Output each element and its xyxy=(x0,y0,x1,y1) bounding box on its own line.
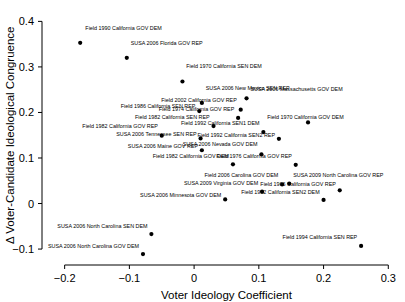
y-tick-label: 0.4 xyxy=(19,15,34,27)
data-point[interactable] xyxy=(231,162,235,166)
data-point[interactable] xyxy=(321,198,325,202)
data-point[interactable] xyxy=(239,108,243,112)
point-label: Field 1992 California SEN2 REP xyxy=(197,132,275,138)
y-tick-label: 0.2 xyxy=(19,106,34,118)
data-point[interactable] xyxy=(277,137,281,141)
y-tick-label: 0.1 xyxy=(19,152,34,164)
point-label: Field 1974 California GOV REP xyxy=(159,106,235,112)
point-label: Field 1992 California SEN1 DEM xyxy=(181,120,260,126)
point-label: Field 1970 California SEN DEM xyxy=(186,63,262,69)
data-point[interactable] xyxy=(306,120,310,124)
point-label: SUSA 2009 North Carolina GOV REP xyxy=(293,172,384,178)
point-label: SUSA 2009 Virginia GOV DEM xyxy=(184,180,259,186)
point-label: Field 1990 California GOV DEM xyxy=(85,25,162,31)
chart-canvas: −0.100.10.20.30.4−0.2−0.100.10.20.3Voter… xyxy=(0,0,405,302)
data-point[interactable] xyxy=(223,197,227,201)
x-tick-label: 0 xyxy=(191,272,197,284)
x-tick-label: 0.1 xyxy=(251,272,266,284)
x-tick-label: 0.2 xyxy=(316,272,331,284)
point-label: SUSA 2006 Tennessee SEN REP xyxy=(116,131,197,137)
point-label: Field 2006 Carolina GOV DEM xyxy=(205,172,279,178)
point-label: Field 1994 California SEN REP xyxy=(283,234,358,240)
point-label: SUSA 2006 Massachusetts GOV DEM xyxy=(250,86,343,92)
data-point[interactable] xyxy=(78,41,82,45)
point-label: SUSA 2006 Florida GOV REP xyxy=(131,40,203,46)
point-label: Field 1976 California GOV REP xyxy=(216,153,292,159)
scatter-plot: −0.100.10.20.30.4−0.2−0.100.10.20.3Voter… xyxy=(0,0,405,302)
y-tick-label: 0 xyxy=(28,198,34,210)
y-tick-label: 0.3 xyxy=(19,61,34,73)
point-label: SUSA 2006 North Carolina GOV DEM xyxy=(48,243,140,249)
x-axis-title: Voter Ideology Coefficient xyxy=(161,289,293,301)
data-point[interactable] xyxy=(180,79,184,83)
point-label: Field 1966 California GOV REP xyxy=(260,181,336,187)
point-label: SUSA 2006 Nevada GOV DEM xyxy=(183,141,258,147)
x-tick-label: 0.3 xyxy=(381,272,396,284)
point-label: Field 2002 California GOV REP xyxy=(161,97,237,103)
point-label: Field 1970 California GOV DEM xyxy=(267,114,344,120)
data-point[interactable] xyxy=(294,163,298,167)
point-label: Field 1982 California SEN REP xyxy=(135,114,210,120)
data-point[interactable] xyxy=(338,188,342,192)
data-point[interactable] xyxy=(125,56,129,60)
data-point[interactable] xyxy=(359,244,363,248)
y-axis-title: Δ Voter-Candidate Ideological Congruence xyxy=(4,27,16,244)
point-label: SUSA 2006 North Carolina SEN DEM xyxy=(57,223,148,229)
x-tick-label: −0.2 xyxy=(54,272,76,284)
data-point[interactable] xyxy=(149,232,153,236)
data-point[interactable] xyxy=(244,96,248,100)
data-point[interactable] xyxy=(141,252,145,256)
point-label: Field 1982 California GOV REP xyxy=(82,123,158,129)
point-label: SUSA 2006 Minnesota GOV DEM xyxy=(140,192,222,198)
point-label: Field 1992 California SEN2 DEM xyxy=(241,189,320,195)
x-tick-label: −0.1 xyxy=(119,272,141,284)
